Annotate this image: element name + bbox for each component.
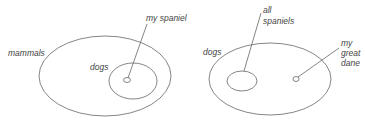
dogs-label: dogs <box>203 47 222 57</box>
all-spaniels-leader <box>244 13 261 71</box>
dogs-set <box>109 63 157 99</box>
my-great-dane-label-line3: dane <box>341 58 360 68</box>
my-great-dane-leader <box>298 48 339 77</box>
right-diagram: dogs all spaniels my great dane <box>203 5 361 115</box>
my-great-dane-label-line1: my <box>341 38 353 48</box>
left-diagram: mammals dogs my spaniel <box>8 13 188 116</box>
dogs-label: dogs <box>90 62 109 72</box>
all-spaniels-set <box>227 71 257 91</box>
mammals-set <box>39 36 171 116</box>
my-great-dane-label-line2: great <box>341 48 361 58</box>
my-spaniel-point <box>124 78 131 83</box>
all-spaniels-label-line2: spaniels <box>263 16 295 26</box>
my-spaniel-leader <box>128 24 147 78</box>
all-spaniels-label-line1: all <box>263 5 273 15</box>
mammals-label: mammals <box>8 48 46 58</box>
venn-diagrams: mammals dogs my spaniel dogs all spaniel… <box>0 0 365 121</box>
my-spaniel-label: my spaniel <box>146 13 188 23</box>
my-great-dane-point <box>293 77 299 82</box>
